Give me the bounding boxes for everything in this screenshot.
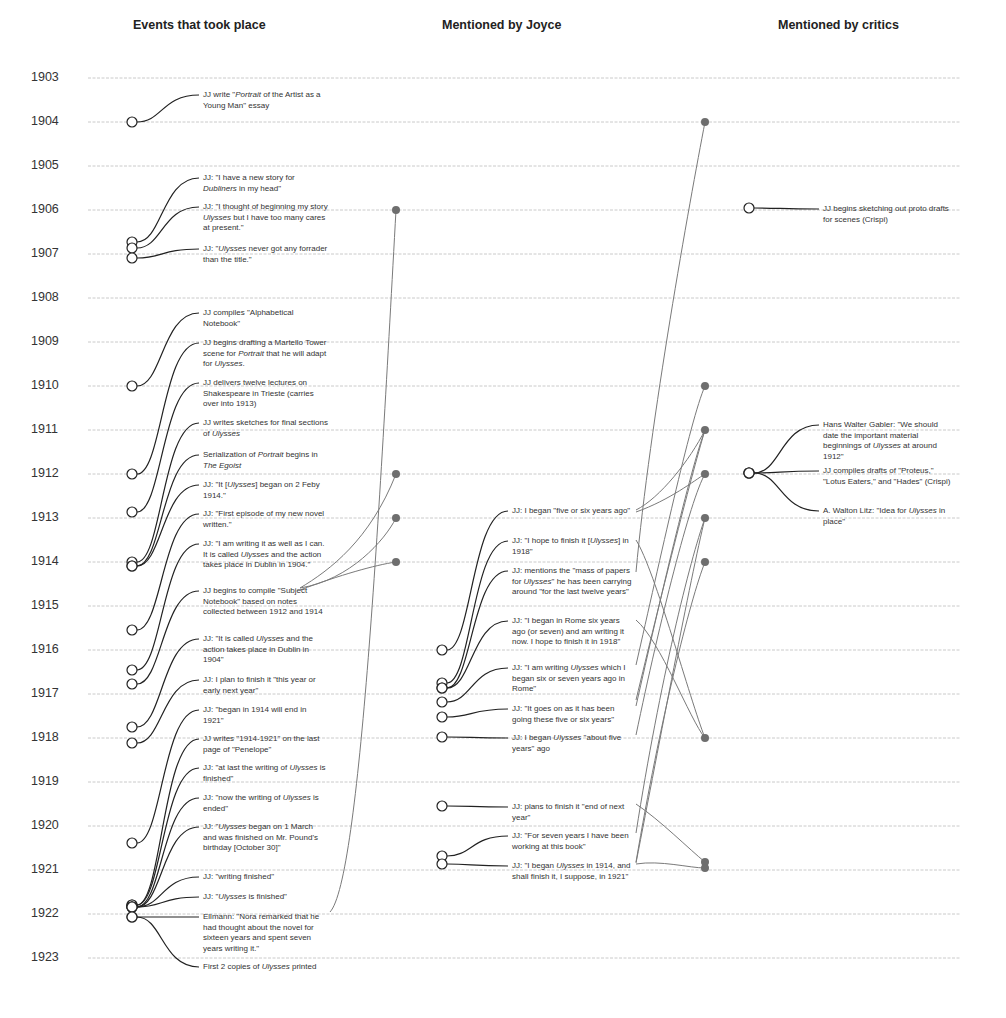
joyce-connector-line [447,836,508,856]
events-label: JJ: "at last the writing of Ulysses is f… [203,763,328,784]
joyce-connector-line [447,864,508,866]
joyce-circle-icon [437,645,447,655]
joyce-circle-icon [437,732,447,742]
events-circle-icon [127,561,137,571]
events-connector-line [137,455,199,566]
joyce-circle-icon [437,859,447,869]
events-connector-line [137,710,199,843]
joyce-label: JJ: I began "five or six years ago" [512,506,632,517]
events-circle-icon [127,253,137,263]
events-circle-icon [127,469,137,479]
critics-connector-line [754,208,819,209]
joyce-label: JJ: plans to finish it "end of next year… [512,802,632,823]
events-circle-icon [127,507,137,517]
critics-label: JJ begins sketching out proto drafts for… [823,204,953,225]
events-connector-line [137,343,199,474]
anchor-dot-icon [392,206,400,214]
joyce-circle-icon [437,801,447,811]
events-connector-line [137,917,199,967]
anchor-dot-icon [701,734,709,742]
joyce-circle-icon [437,697,447,707]
events-connector-line [137,680,199,743]
events-label: Ellmann: "Nora remarked that he had thou… [203,912,328,954]
events-label: JJ writes "1914-1921" on the last page o… [203,734,328,755]
events-circle-icon [127,738,137,748]
events-label: JJ begins drafting a Martello Tower scen… [203,338,328,370]
events-label: JJ: "I am writing it as well as I can. I… [203,539,328,571]
events-label: JJ write "Portrait of the Artist as a Yo… [203,90,328,111]
events-label: JJ: "Ulysses began on 1 March and was fi… [203,822,328,854]
anchor-dot-icon [701,470,709,478]
joyce-label: JJ: mentions the "mass of papers for Uly… [512,566,632,598]
anchor-dot-icon [701,864,709,872]
critics-label: A. Walton Litz: "Idea for Ulysses in pla… [823,506,953,527]
events-connector-line [137,739,199,905]
events-circle-icon [127,381,137,391]
events-label: JJ: "now the writing of Ulysses is ended… [203,793,328,814]
events-circle-icon [127,902,137,912]
events-connector-line [137,249,199,258]
joyce-connector-line [447,709,508,717]
events-label: JJ: I plan to finish it "this year or ea… [203,675,328,696]
critics-circle-icon [744,468,754,478]
events-circle-icon [127,679,137,689]
events-connector-line [137,423,199,562]
joyce-label: JJ: "For seven years I have been working… [512,831,632,852]
anchor-dot-icon [701,514,709,522]
events-label: First 2 copies of Ulysses printed [203,962,328,973]
events-connector-line [137,514,199,630]
events-circle-icon [127,838,137,848]
joyce-circle-icon [437,683,447,693]
anchor-dot-icon [392,514,400,522]
events-label: JJ: "First episode of my new novel writt… [203,509,328,530]
joyce-connector-line [447,737,508,738]
critics-label: Hans Walter Gabler: "We should date the … [823,420,953,462]
critics-connector-line [754,425,819,473]
joyce-connector-line [447,511,508,650]
events-label: JJ writes sketches for final sections of… [203,418,328,439]
joyce-label: JJ: "I am writing Ulysses which I began … [512,663,632,695]
events-label: JJ: "It is called Ulysses and the action… [203,634,328,666]
events-label: JJ: "Ulysses never got any forrader than… [203,244,328,265]
joyce-label: JJ: "I began in Rome six years ago (or s… [512,616,632,648]
joyce-connector-line [447,571,508,688]
critics-connector-line [754,473,819,511]
events-circle-icon [127,665,137,675]
anchor-dot-icon [392,558,400,566]
events-label: JJ: "It [Ulysses] began on 2 Feby 1914." [203,480,328,501]
events-connector-line [137,544,199,670]
events-label: JJ: "Ulysses is finished" [203,892,328,903]
joyce-label: JJ: "I began Ulysses in 1914, and shall … [512,861,632,882]
joyce-circle-icon [437,712,447,722]
anchor-dot-icon [701,118,709,126]
anchor-dot-icon [392,470,400,478]
joyce-label: JJ: "It goes on as it has been going the… [512,704,632,725]
critics-circle-icon [744,203,754,213]
events-connector-line [137,207,199,248]
connector-lines [300,122,705,912]
joyce-label: JJ: I began Ulysses "about five years" a… [512,733,632,754]
events-connector-line [137,95,199,122]
critics-label: JJ compiles drafts of "Proteus," "Lotus … [823,466,953,487]
events-label: JJ: "I thought of beginning my story Uly… [203,202,328,234]
events-connector-line [137,798,199,907]
joyce-connector-line [447,806,508,807]
anchor-dot-icon [701,558,709,566]
events-circle-icon [127,722,137,732]
anchor-dot-icon [701,382,709,390]
events-label: JJ: "I have a new story for Dubliners in… [203,173,328,194]
anchor-dots [392,118,709,872]
critics-connector-line [754,471,819,473]
events-circle-icon [127,912,137,922]
joyce-label: JJ: "I hope to finish it [Ulysses] in 19… [512,536,632,557]
events-label: JJ: "writing finished" [203,872,328,883]
events-circle-icon [127,117,137,127]
events-circle-icon [127,243,137,253]
events-label: JJ: "began in 1914 will end in 1921" [203,705,328,726]
joyce-connector-line [447,621,508,688]
events-circle-icon [127,625,137,635]
anchor-dot-icon [701,426,709,434]
events-label: JJ begins to compile "Subject Notebook" … [203,586,328,618]
events-label: JJ compiles "Alphabetical Notebook" [203,308,328,329]
events-label: Serialization of Portrait begins in The … [203,450,328,471]
